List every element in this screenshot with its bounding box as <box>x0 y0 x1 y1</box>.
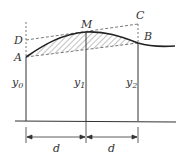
hatched-region <box>26 32 138 57</box>
baseline <box>15 121 176 122</box>
label-y0: y0 <box>11 76 23 90</box>
label-spacing-d2: d <box>108 142 115 155</box>
label-y2: y2 <box>125 76 137 90</box>
label-point-b: B <box>143 30 152 43</box>
label-y1: y1 <box>73 76 85 90</box>
label-spacing-d1: d <box>53 142 60 155</box>
label-point-d: D <box>13 34 23 47</box>
trapezoid-area-diagram: A D M C B y0 y1 y2 d d <box>0 0 186 162</box>
dimension-arrow-1 <box>27 135 85 139</box>
dimension-arrow-2 <box>87 135 137 139</box>
label-point-a: A <box>13 51 22 64</box>
label-point-m: M <box>80 18 93 31</box>
label-point-c: C <box>136 9 145 22</box>
